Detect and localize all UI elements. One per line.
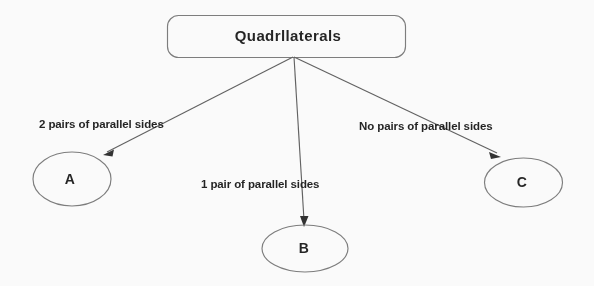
edge-label-no-pairs: No pairs of parallel sides — [359, 120, 493, 132]
arrowhead-c — [489, 152, 501, 159]
edge-label-one-pair: 1 pair of parallel sides — [201, 178, 319, 190]
node-label-a: A — [65, 171, 75, 187]
node-label-c: C — [517, 174, 527, 190]
connector-root-to-c — [294, 57, 497, 153]
quadrilaterals-classification-diagram: Quadrllaterals A B C 2 pairs of parallel… — [0, 0, 594, 286]
arrowhead-a — [103, 150, 114, 157]
connector-root-to-a — [107, 57, 293, 152]
root-node-label: Quadrllaterals — [235, 27, 341, 44]
diagram-canvas: Quadrllaterals A B C 2 pairs of parallel… — [0, 0, 594, 286]
edge-label-two-pairs: 2 pairs of parallel sides — [39, 118, 164, 130]
node-label-b: B — [299, 240, 309, 256]
connector-root-to-b — [294, 57, 304, 220]
